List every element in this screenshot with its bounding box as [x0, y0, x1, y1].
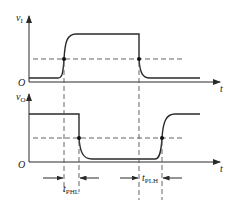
origin-label-top: O: [18, 77, 25, 88]
tplh-dimension: tPLH: [120, 172, 182, 185]
threshold-point-out-fall: [77, 136, 81, 140]
output-waveform: [29, 114, 200, 159]
timing-diagram: vI O t vO O t tPHL tPLH: [0, 0, 236, 208]
input-waveform: [29, 34, 200, 78]
vo-axis-label: vO: [16, 91, 26, 104]
threshold-point-fall: [137, 57, 141, 61]
origin-label-bottom: O: [18, 159, 25, 170]
time-label-bottom: t: [220, 163, 223, 174]
tphl-dimension: tPHL: [43, 178, 99, 196]
output-panel: vO O t: [16, 91, 223, 174]
tplh-label: tPLH: [142, 172, 158, 185]
threshold-point-rise: [62, 57, 66, 61]
time-label-top: t: [220, 83, 223, 94]
vi-axis-label: vI: [16, 12, 23, 25]
input-panel: vI O t: [16, 12, 223, 94]
threshold-point-out-rise: [160, 136, 164, 140]
tphl-label: tPHL: [63, 183, 79, 196]
